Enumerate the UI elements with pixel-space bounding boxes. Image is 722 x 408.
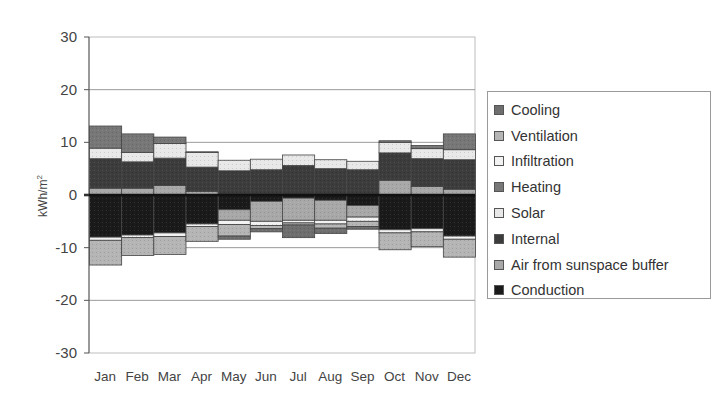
bar-segment: Jul · Solar: 2 <box>283 155 315 166</box>
legend-item: Internal <box>488 226 710 252</box>
legend: CoolingVentilationInfiltrationHeatingSol… <box>487 91 711 299</box>
bar-segment: Sep · Solar: 1.6 <box>347 161 379 169</box>
bar-segment: Nov · Solar: 1.9 <box>411 149 443 159</box>
x-tick-label: Jan <box>94 369 116 384</box>
y-tick-label: 0 <box>69 186 77 203</box>
legend-item: Ventilation <box>488 123 710 149</box>
bar-segment: Aug · Internal: 5 <box>315 169 347 195</box>
bar-segment: Mar · Internal: 5.2 <box>154 158 186 185</box>
legend-swatch-icon <box>494 131 504 141</box>
bar-segment: Dec · Infiltration: -0.6 <box>443 236 475 239</box>
bar-segment: Jan · Solar: 2 <box>90 148 122 159</box>
bar-segment: Aug · Solar: 1.7 <box>315 160 347 169</box>
bar-segment: Feb · Conduction: -7.6 <box>122 195 154 235</box>
legend-swatch-icon <box>494 105 504 115</box>
legend-label: Infiltration <box>511 153 574 169</box>
bar-segment: Apr · Ventilation: -2.8 <box>186 227 218 242</box>
bar-segment: Aug · Ventilation: -0.8 <box>315 224 347 228</box>
legend-swatch-icon <box>494 234 504 244</box>
bar-segment: Jun · Ventilation: -0.6 <box>250 226 282 229</box>
legend-label: Solar <box>511 205 545 221</box>
bar-segment: Jun · Infiltration: -0.8 <box>250 221 282 225</box>
bar-segment: Jul · Cooling: -2.4 <box>283 225 315 238</box>
x-tick-label: Oct <box>384 369 405 384</box>
bar-segment: Nov · Infiltration: -0.6 <box>411 229 443 232</box>
bar-segment: Oct · Air from sunspace buffer: 2.8 <box>379 180 411 195</box>
bar-segment: Jan · Heating: 4.2 <box>90 126 122 148</box>
bar-segment: Mar · Ventilation: -3.4 <box>154 237 186 255</box>
bar-segment: Oct · Conduction: -6.6 <box>379 195 411 230</box>
bar-segment: May · Infiltration: -0.8 <box>218 220 250 224</box>
y-tick-label: 10 <box>60 133 77 150</box>
x-tick-label: Apr <box>191 369 213 384</box>
bar-segment: Sep · Air from sunspace buffer: -2.2 <box>347 206 379 218</box>
bar-segment: Oct · Infiltration: -0.6 <box>379 230 411 233</box>
bar-segment: Aug · Air from sunspace buffer: -3.8 <box>315 200 347 220</box>
legend-item: Solar <box>488 200 710 226</box>
bar-segment: Jun · Internal: 4.8 <box>250 170 282 195</box>
bar-segment: Oct · Ventilation: -3.2 <box>379 233 411 250</box>
legend-label: Conduction <box>511 282 584 298</box>
x-tick-label: Dec <box>447 369 471 384</box>
bar-segment: Sep · Conduction: -2 <box>347 195 379 206</box>
bar-segment: Sep · Ventilation: -1 <box>347 221 379 226</box>
y-axis-label: kWh/m2 <box>35 175 50 217</box>
bar-segment: Apr · Internal: 4.6 <box>186 167 218 191</box>
legend-item: Infiltration <box>488 149 710 175</box>
bar-segment: Dec · Internal: 5.6 <box>443 160 475 189</box>
y-tick-label: 20 <box>60 81 77 98</box>
legend-label: Heating <box>511 179 561 195</box>
x-tick-label: Mar <box>158 369 182 384</box>
bar-segment: Jun · Air from sunspace buffer: -3.8 <box>250 201 282 221</box>
x-tick-label: Jul <box>289 369 306 384</box>
x-axis-ticks: JanFebMarAprMayJunJulAugSepOctNovDec <box>94 369 471 384</box>
y-tick-label: -30 <box>55 344 77 361</box>
x-tick-label: Nov <box>415 369 439 384</box>
bar-segment: Aug · Infiltration: -0.7 <box>315 220 347 224</box>
legend-item: Heating <box>488 174 710 200</box>
legend-label: Ventilation <box>511 128 578 144</box>
bar-segment: Jan · Internal: 5.6 <box>90 159 122 188</box>
bar-segment: Feb · Ventilation: -3.4 <box>122 238 154 256</box>
bar-segment: Jul · Internal: 5.6 <box>283 166 315 195</box>
bar-segment: Sep · Infiltration: -0.8 <box>347 217 379 221</box>
y-tick-label: -10 <box>55 239 77 256</box>
legend-swatch-icon <box>494 285 504 295</box>
legend-swatch-icon <box>494 208 504 218</box>
bar-segment: Dec · Heating: 3 <box>443 134 475 150</box>
bar-segment: Oct · Internal: 5.2 <box>379 153 411 180</box>
legend-swatch-icon <box>494 260 504 270</box>
legend-item: Conduction <box>488 278 710 304</box>
bar-segment: Jul · Air from sunspace buffer: -4.2 <box>283 198 315 220</box>
x-tick-label: Sep <box>350 369 374 384</box>
bar-segment: Jun · Cooling: -0.6 <box>250 229 282 232</box>
bar-segment: Nov · Ventilation: -2.8 <box>411 232 443 247</box>
bar-segment: Nov · Internal: 5.3 <box>411 159 443 187</box>
y-axis-ticks: 3020100-10-20-30 <box>55 28 89 361</box>
bar-segment: Mar · Air from sunspace buffer: 1.8 <box>154 186 186 195</box>
bar-segment: Oct · Heating: 0.3 <box>379 141 411 143</box>
bar-segment: Mar · Heating: 1.2 <box>154 137 186 143</box>
bar-segment: Oct · Solar: 2 <box>379 142 411 153</box>
bar-segment: Feb · Heating: 3.5 <box>122 134 154 152</box>
bar-segment: Mar · Conduction: -7.2 <box>154 195 186 233</box>
legend-label: Cooling <box>511 102 560 118</box>
bar-segment: Sep · Cooling: -0.5 <box>347 227 379 230</box>
y-tick-label: 30 <box>60 28 77 45</box>
bar-segment: May · Air from sunspace buffer: -2 <box>218 210 250 221</box>
legend-item: Cooling <box>488 97 710 123</box>
y-tick-label: -20 <box>55 291 77 308</box>
bar-segment: Nov · Air from sunspace buffer: 1.6 <box>411 187 443 195</box>
x-tick-label: May <box>221 369 247 384</box>
bar-segment: Apr · Solar: 2.8 <box>186 152 218 167</box>
bar-segment: Mar · Solar: 2.8 <box>154 143 186 158</box>
bar-segment: Aug · Cooling: -1 <box>315 228 347 233</box>
x-tick-label: Feb <box>126 369 149 384</box>
bar-segment: Dec · Conduction: -7.8 <box>443 195 475 236</box>
legend-swatch-icon <box>494 182 504 192</box>
bar-segment: Dec · Ventilation: -3.4 <box>443 239 475 257</box>
bar-segment: May · Conduction: -2.8 <box>218 195 250 210</box>
legend-label: Air from sunspace buffer <box>511 257 669 273</box>
x-tick-label: Jun <box>255 369 277 384</box>
bar-segment: Feb · Internal: 5 <box>122 162 154 188</box>
